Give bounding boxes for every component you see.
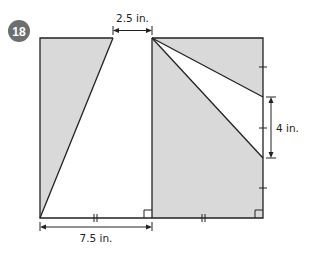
problem-number-badge: 18 bbox=[8, 20, 30, 42]
right-dimension: 4 in. bbox=[266, 97, 299, 158]
geometry-figure: 18 2.5 in. bbox=[0, 0, 317, 256]
bottom-dimension: 7.5 in. bbox=[40, 222, 152, 244]
svg-text:4 in.: 4 in. bbox=[276, 122, 299, 134]
svg-text:18: 18 bbox=[12, 25, 26, 39]
svg-text:7.5 in.: 7.5 in. bbox=[80, 232, 113, 244]
top-dimension: 2.5 in. bbox=[113, 12, 152, 35]
svg-text:2.5 in.: 2.5 in. bbox=[116, 12, 149, 24]
